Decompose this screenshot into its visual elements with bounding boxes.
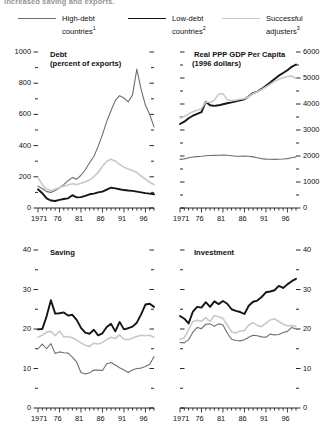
x-tick-label: 91 (118, 214, 126, 223)
y-tick-label: 30 (303, 285, 311, 294)
legend-label-successful-adjusters: Successful (266, 14, 303, 23)
y-tick-label: 400 (19, 141, 31, 150)
x-tick-label: 1971 (173, 214, 189, 223)
y-tick-label: 20 (23, 324, 31, 333)
series-line (38, 344, 154, 374)
chart-title-investment: Investment (194, 248, 234, 257)
y-tick-label: 0 (27, 403, 31, 412)
y-tick-label: 40 (303, 245, 311, 254)
x-tick-label: 81 (217, 414, 225, 423)
y-tick-label: 10 (23, 364, 31, 373)
legend-note-successful-adjusters: 3 (297, 25, 300, 31)
legend-note-low-debt: 2 (203, 25, 206, 31)
chart-subtitle-gdp: (1996 dollars) (192, 59, 241, 68)
legend-label2-high-debt: countries (62, 26, 93, 35)
legend-swatch-low-debt (128, 18, 166, 19)
series-line (180, 64, 296, 124)
x-tick-label: 81 (75, 214, 83, 223)
chart-panel-debt: 0200400600800100019717681869196Debt(perc… (6, 46, 166, 234)
legend-swatch-high-debt (18, 18, 56, 19)
legend-label-low-debt: Low-debt (172, 14, 203, 23)
y-tick-label: 20 (303, 324, 311, 333)
x-tick-label: 1971 (31, 214, 47, 223)
x-tick-label: 76 (195, 414, 203, 423)
legend-label2-successful-adjusters: adjusters (266, 26, 297, 35)
y-tick-label: 40 (23, 245, 31, 254)
page-caption: increased saving and exports. (4, 0, 204, 6)
y-tick-label: 800 (19, 78, 31, 87)
x-tick-label: 91 (260, 414, 268, 423)
series-line (180, 324, 296, 343)
y-tick-label: 30 (23, 285, 31, 294)
x-tick-label: 81 (217, 214, 225, 223)
legend-item-low-debt: Low-debt countries2 (172, 14, 206, 36)
x-tick-label: 76 (53, 214, 61, 223)
x-tick-label: 96 (139, 214, 147, 223)
x-tick-label: 91 (118, 414, 126, 423)
y-tick-label: 1000 (15, 47, 31, 56)
x-tick-label: 76 (195, 214, 203, 223)
y-tick-label: 6000 (303, 47, 319, 56)
y-tick-label: 0 (27, 203, 31, 212)
x-tick-label: 1971 (173, 414, 189, 423)
legend-note-high-debt: 1 (93, 25, 96, 31)
y-tick-label: 10 (303, 364, 311, 373)
y-tick-label: 5000 (303, 73, 319, 82)
legend-swatch-successful-adjusters (222, 18, 260, 19)
legend-item-high-debt: High-debt countries1 (62, 14, 96, 36)
chart-title-debt: Debt (50, 50, 67, 59)
chart-panel-saving: 01020304019717681869196Saving (6, 244, 166, 434)
y-tick-label: 1000 (303, 177, 319, 186)
x-tick-label: 91 (260, 214, 268, 223)
y-tick-label: 4000 (303, 99, 319, 108)
y-tick-label: 0 (303, 203, 307, 212)
chart-panel-investment: 01020304019717681869196Investment (170, 244, 330, 434)
x-tick-label: 86 (96, 214, 104, 223)
chart-subtitle-debt: (percent of exports) (50, 59, 121, 68)
legend-label2-low-debt: countries (172, 26, 203, 35)
x-tick-label: 86 (238, 414, 246, 423)
series-line (38, 159, 154, 190)
x-tick-label: 1971 (31, 414, 47, 423)
x-tick-label: 96 (281, 414, 289, 423)
series-line (180, 76, 296, 118)
x-tick-label: 96 (281, 214, 289, 223)
legend-item-successful-adjusters: Successful adjusters3 (266, 14, 303, 36)
x-tick-label: 86 (96, 414, 104, 423)
x-tick-label: 96 (139, 414, 147, 423)
chart-title-gdp: Real PPP GDP Per Capita (194, 50, 285, 59)
y-tick-label: 200 (19, 172, 31, 181)
y-tick-label: 2000 (303, 151, 319, 160)
legend-label-high-debt: High-debt (62, 14, 95, 23)
chart-title-saving: Saving (50, 248, 75, 257)
series-line (180, 279, 296, 324)
x-tick-label: 86 (238, 214, 246, 223)
chart-panel-gdp: 010002000300040005000600019717681869196R… (170, 46, 330, 234)
series-line (38, 300, 154, 335)
x-tick-label: 76 (53, 414, 61, 423)
series-line (180, 155, 296, 159)
y-tick-label: 0 (303, 403, 307, 412)
x-tick-label: 81 (75, 414, 83, 423)
y-tick-label: 600 (19, 109, 31, 118)
chart-legend: High-debt countries1 Low-debt countries2… (0, 14, 332, 40)
y-tick-label: 3000 (303, 125, 319, 134)
